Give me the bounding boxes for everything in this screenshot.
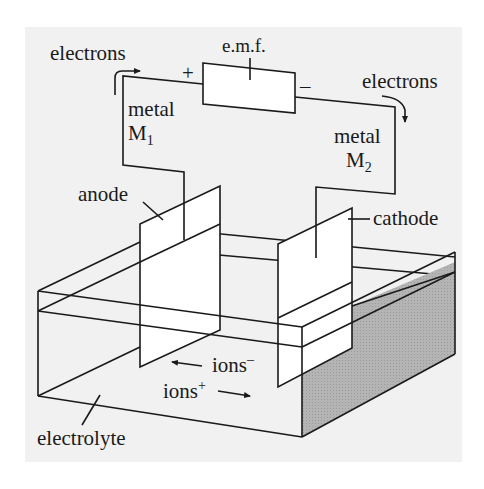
positive-ion-arrow <box>218 391 250 396</box>
diagram-canvas: e.m.f. + – electrons electrons metal M1 … <box>0 0 484 489</box>
emf-source-box <box>203 63 295 113</box>
minus-terminal-label: – <box>299 74 311 98</box>
metal-m2-label: metal <box>334 124 381 148</box>
cathode-label: cathode <box>373 206 438 230</box>
emf-label: e.m.f. <box>222 35 266 56</box>
plus-terminal-label: + <box>182 61 194 85</box>
electron-arrow-left <box>115 71 140 95</box>
electrolyte-leader <box>82 395 100 425</box>
anode-plate <box>140 186 220 367</box>
electron-arrow-right <box>382 96 405 122</box>
electrons-left-label: electrons <box>50 41 126 65</box>
ions-positive-label: ions+ <box>163 378 206 403</box>
electrolyte-back-shade <box>352 262 455 354</box>
electrochemical-cell-diagram: e.m.f. + – electrons electrons metal M1 … <box>0 0 484 489</box>
electrolyte-label: electrolyte <box>37 426 126 450</box>
metal-m1-label: metal <box>128 97 175 121</box>
negative-ion-arrow <box>172 362 202 366</box>
electrons-right-label: electrons <box>362 69 438 93</box>
anode-label: anode <box>78 182 128 206</box>
ions-negative-label: ions– <box>212 352 255 377</box>
metal-m2-symbol: M2 <box>346 148 372 175</box>
metal-m1-symbol: M1 <box>128 121 154 148</box>
